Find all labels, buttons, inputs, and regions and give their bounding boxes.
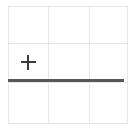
table-row[interactable] [9,44,128,83]
grid-cell-r3c1[interactable] [9,83,49,124]
cell-content-r3c1 [9,83,48,123]
row-insertion-line[interactable] [8,79,124,82]
grid-cell-r2c1[interactable] [9,44,49,83]
cell-content-r2c1 [9,44,48,82]
cell-content-r1c2 [49,7,89,43]
plus-icon-vertical-bar [27,55,29,70]
grid-cell-r1c2[interactable] [49,7,90,44]
grid-cell-r3c3[interactable] [90,83,128,124]
table-row[interactable] [9,7,128,44]
cell-content-r3c2 [49,83,89,123]
cell-content-r2c3 [90,44,127,82]
plus-icon[interactable] [21,55,36,70]
grid-cell-r3c2[interactable] [49,83,90,124]
table-row[interactable] [9,83,128,124]
table-grid[interactable] [8,6,128,124]
cell-content-r1c3 [90,7,127,43]
grid-cell-r2c2[interactable] [49,44,90,83]
cell-content-r1c1 [9,7,48,43]
grid-cell-r2c3[interactable] [90,44,128,83]
cell-content-r2c2 [49,44,89,82]
cell-content-r3c3 [90,83,127,123]
grid-cell-r1c3[interactable] [90,7,128,44]
screenshot-canvas [0,0,132,130]
grid-cell-r1c1[interactable] [9,7,49,44]
